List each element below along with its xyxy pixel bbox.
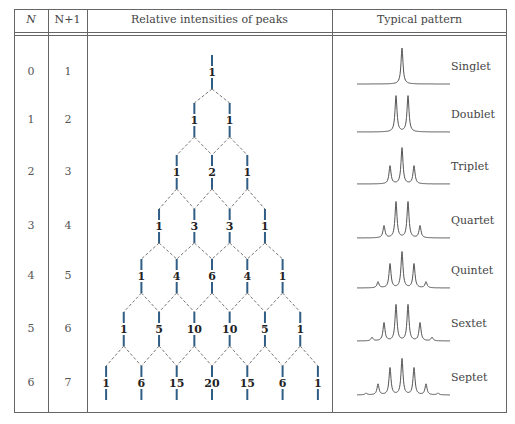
intensity-value: 1 xyxy=(243,166,251,179)
intensity-value: 1 xyxy=(173,166,181,179)
cell-n-plus-1: 4 xyxy=(53,219,83,232)
spectrum-quartet xyxy=(357,202,450,238)
intensity-value: 1 xyxy=(279,270,287,283)
spectra-patterns xyxy=(357,48,450,395)
pascal-triangle-diagram: 111121133114641151010511615201561 xyxy=(102,55,321,400)
intensity-value: 1 xyxy=(120,323,128,336)
cell-n-plus-1: 6 xyxy=(53,322,83,335)
intensity-value: 1 xyxy=(191,114,199,127)
spectrum-singlet xyxy=(357,48,450,84)
pattern-label: Septet xyxy=(451,371,487,384)
intensity-value: 6 xyxy=(279,377,287,390)
intensity-value: 4 xyxy=(243,270,251,283)
spectrum-septet xyxy=(357,358,450,395)
spectrum-quintet xyxy=(357,252,450,288)
header-pattern: Typical pattern xyxy=(332,9,507,31)
intensity-value: 1 xyxy=(102,377,110,390)
intensity-value: 3 xyxy=(191,220,199,233)
intensity-value: 1 xyxy=(138,270,146,283)
intensity-value: 15 xyxy=(169,377,184,390)
pattern-label: Doublet xyxy=(451,108,495,121)
header-n-plus-1: N+1 xyxy=(48,9,87,31)
intensity-value: 5 xyxy=(261,323,269,336)
spectrum-doublet xyxy=(357,96,450,132)
intensity-value: 20 xyxy=(204,377,220,390)
cell-n-plus-1: 7 xyxy=(53,376,83,389)
intensity-value: 1 xyxy=(314,377,322,390)
cell-n: 1 xyxy=(16,113,46,126)
intensity-value: 1 xyxy=(208,66,216,79)
nmr-splitting-table: 111121133114641151010511615201561 N N+1 … xyxy=(0,0,515,424)
intensity-value: 1 xyxy=(155,220,163,233)
cell-n: 2 xyxy=(16,165,46,178)
cell-n: 3 xyxy=(16,219,46,232)
cell-n-plus-1: 3 xyxy=(53,165,83,178)
cell-n-plus-1: 2 xyxy=(53,113,83,126)
spectrum-sextet xyxy=(357,304,450,341)
intensity-value: 6 xyxy=(138,377,146,390)
cell-n-plus-1: 1 xyxy=(53,65,83,78)
spectrum-triplet xyxy=(357,148,450,184)
pattern-label: Quartet xyxy=(451,214,494,227)
intensity-value: 10 xyxy=(222,323,238,336)
pattern-label: Singlet xyxy=(451,60,491,73)
intensity-value: 1 xyxy=(226,114,234,127)
header-n: N xyxy=(14,9,48,31)
intensity-value: 1 xyxy=(296,323,304,336)
intensity-value: 10 xyxy=(187,323,203,336)
cell-n: 5 xyxy=(16,322,46,335)
cell-n-plus-1: 5 xyxy=(53,269,83,282)
cell-n: 4 xyxy=(16,269,46,282)
intensity-value: 2 xyxy=(208,166,216,179)
pattern-label: Quintet xyxy=(451,264,493,277)
pattern-label: Sextet xyxy=(451,317,487,330)
pattern-label: Triplet xyxy=(451,160,489,173)
intensity-value: 3 xyxy=(226,220,234,233)
cell-n: 0 xyxy=(16,65,46,78)
intensity-value: 5 xyxy=(155,323,163,336)
intensity-value: 1 xyxy=(261,220,269,233)
cell-n: 6 xyxy=(16,376,46,389)
intensity-value: 6 xyxy=(208,270,216,283)
intensity-value: 4 xyxy=(173,270,181,283)
intensity-value: 15 xyxy=(240,377,255,390)
table-grid: 111121133114641151010511615201561 xyxy=(0,0,515,424)
header-intensities: Relative intensities of peaks xyxy=(87,9,332,31)
